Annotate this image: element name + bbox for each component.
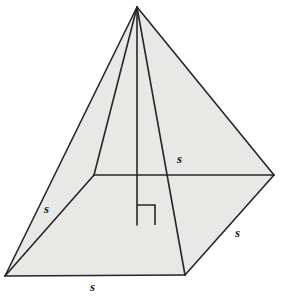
edge-label-left: s (44, 202, 49, 215)
pyramid-faces (5, 7, 274, 276)
pyramid-drawing (0, 0, 282, 300)
edge-label-top-right: s (177, 152, 182, 165)
base-front-to-left-edge (5, 275, 185, 276)
edge-label-bottom: s (90, 280, 95, 293)
edge-label-right: s (235, 226, 240, 239)
pyramid-figure: s s s s (0, 0, 282, 300)
